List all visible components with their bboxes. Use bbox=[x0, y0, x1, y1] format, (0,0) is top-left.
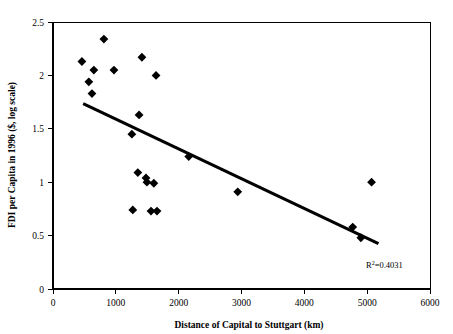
r-squared-annotation: R2=0.4031 bbox=[366, 260, 403, 270]
x-tick-label-1: 1000 bbox=[106, 298, 125, 308]
y-axis-title: FDI per Capita in 1996 ($, log scale) bbox=[7, 82, 18, 228]
y-tick-label-3: 1.5 bbox=[32, 124, 44, 134]
data-point bbox=[99, 35, 108, 44]
data-point bbox=[367, 178, 376, 187]
x-tick-label-3: 3000 bbox=[232, 298, 251, 308]
data-point bbox=[89, 66, 98, 75]
data-point bbox=[84, 77, 93, 86]
x-tick-label-0: 0 bbox=[51, 298, 56, 308]
data-point bbox=[128, 206, 137, 215]
data-point bbox=[149, 179, 158, 188]
data-point bbox=[153, 207, 162, 216]
y-tick-label-0: 0 bbox=[39, 285, 44, 295]
x-tick-label-5: 5000 bbox=[358, 298, 377, 308]
y-tick-label-2: 1 bbox=[39, 178, 44, 188]
x-tick-label-4: 4000 bbox=[295, 298, 314, 308]
y-axis-ticks: 0 0.5 1 1.5 2 2.5 bbox=[32, 18, 53, 295]
x-tick-label-6: 6000 bbox=[421, 298, 440, 308]
data-point bbox=[135, 111, 144, 120]
data-point bbox=[138, 53, 147, 62]
scatter-plot-svg: 0 0.5 1 1.5 2 2.5 0 1000 2000 3000 4000 … bbox=[0, 0, 453, 334]
data-point bbox=[88, 89, 97, 98]
x-tick-label-2: 2000 bbox=[169, 298, 188, 308]
data-point bbox=[78, 57, 87, 66]
data-point bbox=[152, 71, 161, 80]
r-squared-value: =0.4031 bbox=[375, 260, 403, 270]
data-point bbox=[127, 130, 136, 139]
data-point-group bbox=[78, 35, 376, 242]
y-tick-label-5: 2.5 bbox=[32, 18, 44, 28]
data-point bbox=[133, 168, 142, 177]
plot-frame-group bbox=[53, 22, 430, 289]
x-axis-title: Distance of Capital to Stuttgart (km) bbox=[174, 320, 323, 331]
data-point bbox=[110, 66, 119, 75]
y-tick-label-1: 0.5 bbox=[32, 231, 44, 241]
trend-line bbox=[83, 104, 378, 244]
plot-area-border bbox=[53, 22, 430, 289]
svg-text:R2=0.4031: R2=0.4031 bbox=[366, 260, 403, 270]
y-tick-label-4: 2 bbox=[39, 71, 44, 81]
x-axis-ticks: 0 1000 2000 3000 4000 5000 6000 bbox=[51, 289, 440, 308]
data-point bbox=[233, 187, 242, 196]
chart-figure: 0 0.5 1 1.5 2 2.5 0 1000 2000 3000 4000 … bbox=[0, 0, 453, 334]
